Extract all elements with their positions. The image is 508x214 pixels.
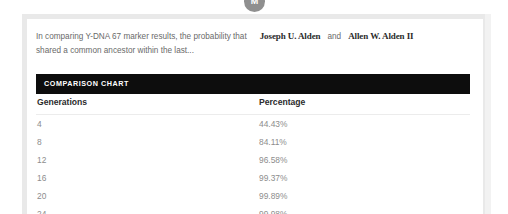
- person-b-name[interactable]: Allen W. Alden II: [348, 31, 413, 41]
- table-row: 8 84.11%: [36, 133, 470, 151]
- cell-generations: 16: [37, 173, 46, 183]
- content-card: In comparing Y-DNA 67 marker results, th…: [27, 19, 483, 214]
- page-gutter: [485, 14, 491, 214]
- column-header-generations: Generations: [37, 97, 87, 107]
- table-row: 4 44.43%: [36, 115, 470, 133]
- table-row: 12 96.58%: [36, 151, 470, 169]
- avatar[interactable]: M: [244, 0, 265, 12]
- cell-generations: 12: [37, 155, 46, 165]
- cell-generations: 20: [37, 191, 46, 201]
- intro-line-1: In comparing Y-DNA 67 marker results, th…: [36, 29, 476, 44]
- intro-text-prefix: In comparing Y-DNA 67 marker results, th…: [36, 32, 247, 41]
- intro-paragraph: In comparing Y-DNA 67 marker results, th…: [36, 29, 476, 58]
- table-header-row: Generations Percentage: [36, 94, 470, 115]
- cell-generations: 24: [37, 209, 46, 214]
- comparison-chart-table: Generations Percentage 4 44.43% 8 84.11%…: [36, 94, 470, 214]
- table-row: 16 99.37%: [36, 169, 470, 187]
- cell-percentage: 96.58%: [259, 155, 287, 165]
- intro-line-2: shared a common ancestor within the last…: [36, 44, 476, 58]
- comparison-chart-header-bar: COMPARISON CHART: [36, 74, 470, 94]
- intro-conjunction: and: [327, 32, 341, 41]
- cell-percentage: 44.43%: [259, 119, 287, 129]
- cell-percentage: 99.37%: [259, 173, 287, 183]
- cell-generations: 4: [37, 119, 42, 129]
- table-row: 20 99.89%: [36, 187, 470, 205]
- comparison-chart-title: COMPARISON CHART: [44, 79, 129, 88]
- cell-generations: 8: [37, 137, 42, 147]
- table-row: 24 99.98%: [36, 205, 470, 214]
- cell-percentage: 99.98%: [259, 209, 287, 214]
- cell-percentage: 84.11%: [259, 137, 287, 147]
- screenshot-root: M In comparing Y-DNA 67 marker results, …: [0, 0, 508, 214]
- column-header-percentage: Percentage: [259, 97, 305, 107]
- person-a-name[interactable]: Joseph U. Alden: [260, 31, 321, 41]
- cell-percentage: 99.89%: [259, 191, 287, 201]
